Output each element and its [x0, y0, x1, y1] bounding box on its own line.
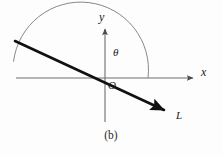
angle-theta-label: θ: [113, 47, 118, 58]
line-L-label: L: [176, 110, 182, 121]
figure-caption: (b): [0, 130, 222, 142]
y-axis-label: y: [99, 11, 104, 23]
angle-arc-theta: [14, 2, 149, 78]
figure-container: y x O θ L (b): [0, 0, 222, 155]
x-axis-label: x: [201, 66, 206, 78]
origin-label: O: [108, 80, 116, 91]
line-L: [15, 41, 164, 110]
